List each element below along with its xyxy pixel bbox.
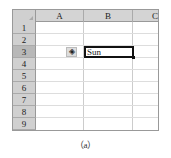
cell-value: Sun — [87, 47, 101, 57]
fill-handle[interactable] — [132, 56, 135, 59]
active-cell-b3[interactable]: Sun — [84, 46, 134, 58]
gridline-horizontal — [36, 81, 158, 82]
column-header-row: A B C — [13, 10, 158, 22]
row-header-6[interactable]: 6 — [13, 82, 36, 94]
smart-tag-icon[interactable]: ◈ — [66, 47, 77, 57]
spreadsheet-grid: A B C 1 2 3 4 5 6 7 8 9 ◈ Sun — [12, 9, 159, 131]
select-all-corner[interactable] — [13, 10, 36, 22]
row-header-1[interactable]: 1 — [13, 22, 36, 34]
row-header-7[interactable]: 7 — [13, 94, 36, 106]
figure-caption: （a） — [0, 138, 171, 151]
gridline-horizontal — [36, 69, 158, 70]
row-header-9[interactable]: 9 — [13, 118, 36, 130]
column-header-c[interactable]: C — [133, 10, 159, 22]
row-header-2[interactable]: 2 — [13, 34, 36, 46]
row-header-3[interactable]: 3 — [13, 46, 36, 58]
column-header-b[interactable]: B — [84, 10, 133, 22]
gridline-vertical — [83, 22, 84, 130]
row-header-8[interactable]: 8 — [13, 106, 36, 118]
row-header-4[interactable]: 4 — [13, 58, 36, 70]
row-header-5[interactable]: 5 — [13, 70, 36, 82]
gridline-vertical — [132, 22, 133, 130]
gridline-horizontal — [36, 117, 158, 118]
column-header-a[interactable]: A — [36, 10, 84, 22]
select-all-triangle-icon — [29, 16, 33, 20]
gridline-horizontal — [36, 33, 158, 34]
gridline-horizontal — [36, 93, 158, 94]
gridline-horizontal — [36, 105, 158, 106]
